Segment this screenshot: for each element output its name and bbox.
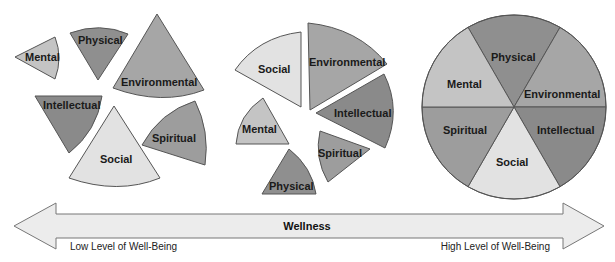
label-environmental: Environmental — [121, 76, 197, 88]
label-environmental: Environmental — [309, 56, 385, 68]
label-physical: Physical — [491, 51, 536, 63]
label-physical: Physical — [269, 180, 314, 192]
label-mental: Mental — [242, 123, 277, 135]
label-social: Social — [496, 156, 528, 168]
label-mental: Mental — [25, 51, 60, 63]
stage-high-integrated: Physical Mental Environmental Spiritual … — [422, 15, 606, 199]
wellness-arrow: Wellness Low Level of Well-Being High Le… — [14, 203, 604, 252]
label-mental: Mental — [447, 78, 482, 90]
label-intellectual: Intellectual — [334, 107, 391, 119]
wellness-diagram: Mental Physical Environmental Intellectu… — [0, 0, 615, 262]
label-spiritual: Spiritual — [318, 147, 362, 159]
label-spiritual: Spiritual — [443, 124, 487, 136]
segment-mental — [236, 98, 289, 144]
arrow-title: Wellness — [283, 220, 331, 232]
label-social: Social — [100, 153, 132, 165]
high-wellbeing-label: High Level of Well-Being — [441, 241, 550, 252]
label-intellectual: Intellectual — [537, 124, 594, 136]
label-physical: Physical — [78, 34, 123, 46]
low-wellbeing-label: Low Level of Well-Being — [70, 241, 177, 252]
stage-low-scattered: Mental Physical Environmental Intellectu… — [15, 14, 206, 187]
stage-mid-partial: Social Environmental Intellectual Mental… — [235, 23, 393, 194]
label-spiritual: Spiritual — [152, 132, 196, 144]
label-social: Social — [258, 63, 290, 75]
label-intellectual: Intellectual — [43, 99, 100, 111]
label-environmental: Environmental — [524, 88, 600, 100]
